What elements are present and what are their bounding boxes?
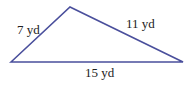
side-label-base: 15 yd — [85, 65, 115, 80]
triangle-figure: 7 yd 11 yd 15 yd — [0, 0, 185, 86]
side-label-left: 7 yd — [17, 22, 40, 37]
side-label-right: 11 yd — [126, 16, 155, 31]
triangle-diagram: 7 yd 11 yd 15 yd — [0, 0, 185, 86]
